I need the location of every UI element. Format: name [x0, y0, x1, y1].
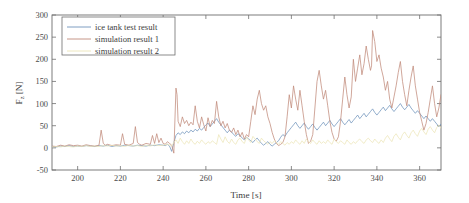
x-tick-label: 280	[242, 174, 255, 183]
y-tick-label: -50	[37, 166, 48, 175]
x-tick-label: 260	[200, 174, 213, 183]
x-tick-label: 240	[157, 174, 170, 183]
chart-legend: ice tank test resultsimulation result 1s…	[62, 17, 175, 56]
x-axis-title-label: Time [s]	[230, 190, 261, 200]
y-tick-label: 0	[44, 144, 48, 153]
x-axis-title: Time [s]	[230, 190, 261, 200]
legend-label: simulation result 1	[95, 34, 159, 44]
x-tick-label: 200	[71, 174, 84, 183]
y-axis-title: Fz[N]	[14, 82, 25, 105]
x-tick-label: 220	[114, 174, 127, 183]
y-tick-label: 100	[35, 100, 48, 109]
y-axis-title-subscript: z	[18, 96, 25, 99]
x-tick-label: 300	[285, 174, 298, 183]
x-tick-label: 340	[371, 174, 384, 183]
legend-items: ice tank test resultsimulation result 1s…	[67, 22, 159, 56]
x-tick-label: 360	[413, 174, 426, 183]
y-tick-label: 150	[35, 77, 48, 86]
y-tick-label: 50	[40, 122, 48, 131]
series-line	[52, 125, 441, 147]
figure-container: 200220240260280300320340360 -50050100150…	[0, 0, 469, 203]
y-tick-label: 300	[35, 11, 48, 20]
legend-label: ice tank test result	[95, 22, 158, 32]
y-tick-label: 200	[35, 55, 48, 64]
legend-label: simulation result 2	[95, 46, 159, 56]
y-axis-title-unit: [N]	[14, 82, 24, 95]
x-tick-label: 320	[328, 174, 341, 183]
series-line	[52, 104, 441, 152]
line-chart: 200220240260280300320340360 -50050100150…	[0, 0, 469, 203]
y-axis-title-label: Fz[N]	[14, 82, 25, 105]
y-tick-label: 250	[35, 33, 48, 42]
